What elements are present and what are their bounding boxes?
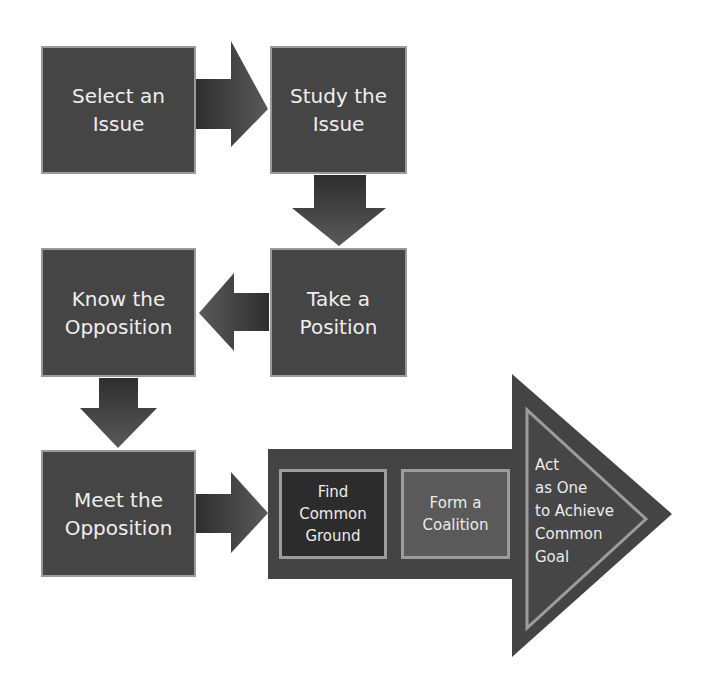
substep-label: Form a Coalition (423, 492, 489, 536)
step-select-issue: Select an Issue (41, 46, 196, 174)
arrow-down-icon (80, 378, 157, 448)
step-label: Take a Position (300, 285, 378, 341)
substep-label: Find Common Ground (299, 481, 367, 547)
arrow-down-icon (292, 175, 386, 246)
step-label: Select an Issue (72, 82, 165, 138)
arrow-right-icon (196, 472, 268, 553)
goal-label: Act as One to Achieve Common Goal (535, 454, 614, 569)
substep-find-common-ground: Find Common Ground (279, 469, 387, 559)
step-take-position: Take a Position (270, 248, 407, 377)
step-label: Meet the Opposition (65, 486, 173, 542)
step-label: Know the Opposition (65, 285, 173, 341)
step-label: Study the Issue (290, 82, 387, 138)
substep-form-coalition: Form a Coalition (401, 469, 510, 559)
arrow-left-icon (199, 273, 269, 351)
step-know-opposition: Know the Opposition (41, 248, 196, 377)
step-study-issue: Study the Issue (270, 46, 407, 174)
step-meet-opposition: Meet the Opposition (41, 450, 196, 577)
arrow-right-icon (196, 41, 268, 147)
